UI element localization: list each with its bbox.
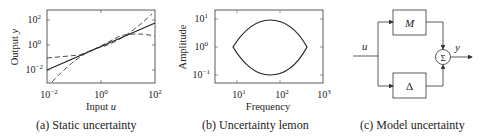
svg-text:10−1: 10−1 xyxy=(193,68,211,80)
plot-a-nominal-line xyxy=(47,23,155,70)
diagram-labels: u y M Δ Σ xyxy=(362,17,460,92)
svg-text:10−2: 10−2 xyxy=(40,88,58,100)
block-m-label: M xyxy=(404,17,415,29)
plot-a-y-ticklabels: 102 100 10−2 xyxy=(26,13,44,75)
svg-text:101: 101 xyxy=(232,88,246,100)
caption-a: (a) Static uncertainty xyxy=(36,118,137,133)
svg-text:101: 101 xyxy=(195,12,209,24)
sum-label: Σ xyxy=(440,53,445,63)
block-delta-label: Δ xyxy=(406,80,413,92)
svg-text:100: 100 xyxy=(195,40,209,52)
svg-text:100: 100 xyxy=(28,38,42,50)
plot-uncertainty-lemon: 101 100 10−1 101 102 103 Frequency Ampli… xyxy=(177,10,331,112)
plot-a-upper-dashed xyxy=(52,14,152,82)
arrow-m-to-sum xyxy=(426,22,443,49)
svg-text:100: 100 xyxy=(94,88,108,100)
plot-static-uncertainty: 102 100 10−2 10−2 100 102 Input u Output… xyxy=(9,10,162,112)
plot-a-x-ticklabels: 10−2 100 102 xyxy=(40,88,162,100)
caption-b: (b) Uncertainty lemon xyxy=(202,118,309,133)
svg-text:102: 102 xyxy=(148,88,162,100)
plot-a-xlabel: Input u xyxy=(86,101,116,112)
plot-b-x-ticklabels: 101 102 103 xyxy=(232,88,331,100)
plot-b-xlabel: Frequency xyxy=(246,101,291,112)
caption-c: (c) Model uncertainty xyxy=(360,118,465,133)
output-label-y: y xyxy=(454,41,460,53)
svg-text:102: 102 xyxy=(28,13,42,25)
svg-text:10−2: 10−2 xyxy=(26,63,44,75)
plot-b-y-ticklabels: 101 100 10−1 xyxy=(193,12,211,80)
plot-b-ylabel: Amplitude xyxy=(177,24,188,69)
plot-b-lemon-curve xyxy=(233,20,307,75)
svg-text:103: 103 xyxy=(317,88,331,100)
svg-text:102: 102 xyxy=(275,88,289,100)
plot-a-ylabel: Output y xyxy=(9,28,20,65)
input-label-u: u xyxy=(362,40,368,52)
arrow-delta-to-sum xyxy=(426,65,443,86)
